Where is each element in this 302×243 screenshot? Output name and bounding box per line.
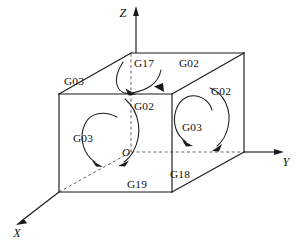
- hidden-edge-x-diagonal: [59, 152, 131, 192]
- origin-label: O: [122, 146, 130, 158]
- arc-top-right-arrowhead: [154, 83, 164, 92]
- arc-right-inner-path: [174, 96, 212, 142]
- arc-front-center-arrowhead: [118, 161, 129, 167]
- arc-front-left-arrowhead: [92, 161, 103, 168]
- label-front-g02: G02: [134, 100, 154, 112]
- label-right-g03: G03: [182, 121, 202, 133]
- x-axis-arrowhead: [16, 218, 27, 225]
- cube-edges: [59, 53, 244, 192]
- labels-group: G03 G17 G02 G02 G03 G19 G02 G03 G18 O Z …: [12, 6, 290, 240]
- label-top-right-g02: G02: [179, 57, 199, 69]
- label-front-g03: G03: [73, 132, 93, 144]
- y-axis-label: Y: [283, 155, 291, 169]
- label-right-g18: G18: [170, 168, 190, 180]
- x-axis-label: X: [12, 226, 21, 240]
- arc-right-g02: [210, 88, 229, 152]
- arc-right-outer-arrowhead: [212, 144, 222, 152]
- label-front-g19: G19: [127, 178, 147, 190]
- x-axis-line: [24, 192, 59, 219]
- arc-right-inner-arrowhead: [182, 140, 193, 147]
- edge-top-left-receding: [59, 53, 131, 94]
- label-top-g17: G17: [134, 57, 154, 69]
- z-axis-label: Z: [120, 6, 127, 20]
- z-axis-arrowhead: [133, 6, 139, 16]
- hidden-edges: [59, 53, 244, 192]
- label-right-g02: G02: [211, 85, 231, 97]
- diagram-root: G03 G17 G02 G02 G03 G19 G02 G03 G18 O Z …: [0, 0, 302, 243]
- plane-selection-diagram: G03 G17 G02 G02 G03 G19 G02 G03 G18 O Z …: [0, 0, 302, 243]
- label-top-left-g03: G03: [64, 75, 84, 87]
